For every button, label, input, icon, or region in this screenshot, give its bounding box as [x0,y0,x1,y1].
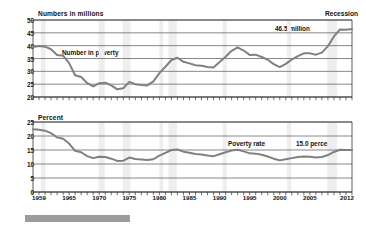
xtick-1985: 1985 [183,194,197,201]
xtick-1990: 1990 [213,194,227,201]
bottom-chart-panel: Percent Poverty rate 15.0 percent 25 20 … [0,110,366,210]
top-chart-svg [0,0,366,110]
xtick-1980: 1980 [153,194,167,201]
xtick-2000: 2000 [273,194,287,201]
xtick-1995: 1995 [243,194,257,201]
xtick-1975: 1975 [122,194,136,201]
xtick-1959: 1959 [32,194,46,201]
top-chart-panel: Numbers in millions Recession 46.5 milli… [0,0,366,110]
xtick-2012: 2012 [340,194,354,201]
bottom-source-bar [25,215,130,222]
xtick-1970: 1970 [92,194,106,201]
poverty-chart-figure: Numbers in millions Recession 46.5 milli… [0,0,366,228]
xtick-1965: 1965 [62,194,76,201]
xtick-2005: 2005 [303,194,317,201]
